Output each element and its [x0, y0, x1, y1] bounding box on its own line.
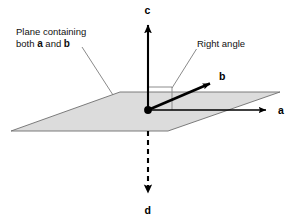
vector-diagram-figure: Plane containing both a and b Right angl…	[0, 0, 292, 222]
vector-b-label: b	[219, 70, 225, 82]
axis-d-label: d	[145, 204, 151, 216]
plane-label-both: both	[16, 38, 37, 49]
diagram-canvas: Plane containing both a and b Right angl…	[0, 0, 292, 222]
leader-line-right-angle-label	[172, 49, 197, 88]
origin-point	[144, 106, 152, 114]
plane-label-vector-b: b	[64, 38, 70, 49]
plane-label-line1: Plane containing	[16, 26, 86, 37]
axis-c-label: c	[145, 4, 151, 16]
right-angle-label: Right angle	[197, 38, 245, 49]
vector-a-label: a	[278, 104, 284, 116]
plane-label-and: and	[43, 38, 64, 49]
plane-label-line2: both a and b	[16, 38, 70, 49]
leader-line-plane-label	[82, 47, 113, 95]
